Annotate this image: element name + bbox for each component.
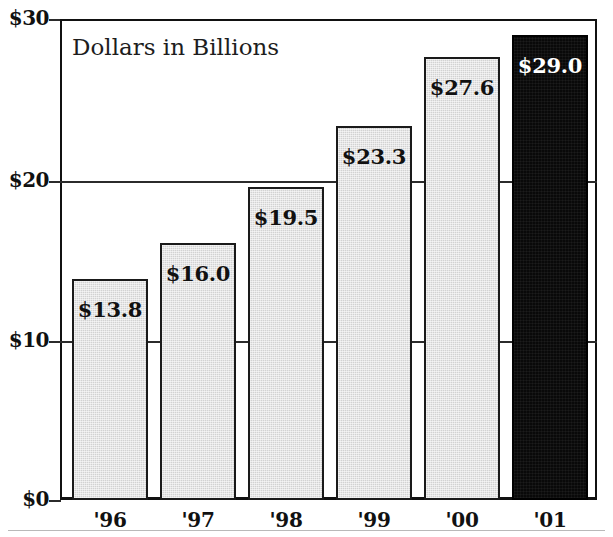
bar-value-2001: $29.0: [514, 53, 586, 78]
bar-chart-figure: $30 $20 $10 $0 Dollars in Billions $13.8…: [0, 0, 613, 537]
y-tick-label-20: $20: [1, 168, 49, 192]
bar-2000: $27.6: [424, 57, 500, 500]
bar-1996: $13.8: [72, 279, 148, 500]
bar-1998: $19.5: [248, 187, 324, 500]
y-tick-label-30: $30: [1, 6, 49, 30]
x-tick-label-1996: '96: [72, 508, 148, 532]
chart-annotation: Dollars in Billions: [72, 34, 279, 60]
x-tick-label-2001: '01: [512, 508, 588, 532]
bar-1999: $23.3: [336, 126, 412, 500]
x-tick-label-2000: '00: [424, 508, 500, 532]
bar-value-1996: $13.8: [74, 297, 146, 322]
y-tick-label-10: $10: [1, 328, 49, 352]
x-tick-label-1998: '98: [248, 508, 324, 532]
y-tick-mark-0: [49, 500, 61, 502]
x-tick-label-1999: '99: [336, 508, 412, 532]
bar-value-1999: $23.3: [338, 144, 410, 169]
bar-value-1998: $19.5: [250, 205, 322, 230]
y-tick-label-0: $0: [1, 487, 49, 511]
bottom-divider: [8, 530, 605, 531]
bar-1997: $16.0: [160, 243, 236, 500]
x-tick-label-1997: '97: [160, 508, 236, 532]
bar-2001: $29.0: [512, 35, 588, 500]
bar-value-1997: $16.0: [162, 261, 234, 286]
bar-value-2000: $27.6: [426, 75, 498, 100]
